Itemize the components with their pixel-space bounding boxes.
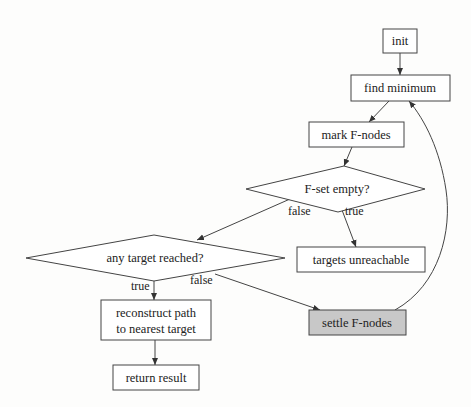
node-fset-empty-label: F-set empty? — [305, 182, 370, 196]
node-init-label: init — [392, 34, 409, 48]
node-any-target-decision: any target reached? — [26, 235, 285, 281]
node-reconstruct-line2: to nearest target — [116, 322, 196, 336]
edge-label-fset-true: true — [345, 204, 364, 218]
node-targets-unreachable: targets unreachable — [297, 247, 425, 272]
node-return-result-label: return result — [126, 371, 187, 385]
node-settle-f-nodes-label: settle F-nodes — [322, 316, 392, 330]
node-any-target-label: any target reached? — [107, 251, 204, 265]
edge-label-any-false: false — [190, 273, 213, 287]
node-reconstruct-line1: reconstruct path — [116, 306, 197, 320]
node-targets-unreachable-label: targets unreachable — [313, 253, 410, 267]
node-find-minimum: find minimum — [351, 75, 450, 101]
node-fset-empty-decision: F-set empty? — [246, 166, 425, 212]
node-init: init — [383, 29, 417, 53]
node-settle-f-nodes: settle F-nodes — [309, 310, 406, 335]
edge-mark-to-fset — [344, 147, 352, 166]
node-find-minimum-label: find minimum — [364, 81, 436, 95]
node-mark-f-nodes-label: mark F-nodes — [321, 128, 390, 142]
node-reconstruct-path: reconstruct path to nearest target — [101, 300, 211, 340]
node-return-result: return result — [113, 365, 199, 390]
edge-find-minimum-to-mark — [369, 101, 389, 122]
edge-any-false-to-settle — [215, 274, 320, 310]
edge-label-any-true: true — [131, 279, 150, 293]
flowchart-canvas: init find minimum mark F-nodes F-set emp… — [0, 0, 471, 407]
edge-label-fset-false: false — [288, 204, 311, 218]
edge-fset-false-to-any — [197, 199, 290, 240]
node-mark-f-nodes: mark F-nodes — [309, 122, 404, 147]
